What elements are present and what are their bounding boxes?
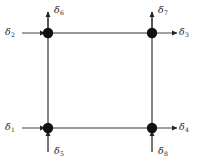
node-top-right	[147, 28, 157, 38]
dof-diagram-figure: δ1 δ2 δ3 δ4 δ5 δ6 δ7 δ8	[0, 0, 199, 165]
dof-symbol-d7: δ	[158, 4, 164, 15]
dof-symbol-d4: δ	[179, 121, 185, 132]
dof-subscript-d6: 6	[60, 9, 64, 16]
dof-subscript-d2: 2	[11, 31, 15, 38]
dof-symbol-d6: δ	[54, 4, 60, 15]
dof-symbol-d1: δ	[5, 121, 11, 132]
dof-label-d3: δ3	[179, 27, 189, 37]
node-top-left	[43, 28, 53, 38]
dof-label-d5: δ5	[54, 146, 64, 156]
dof-subscript-d7: 7	[164, 9, 168, 16]
diagram-canvas	[0, 0, 199, 165]
dof-subscript-d1: 1	[11, 126, 15, 133]
dof-label-d6: δ6	[54, 5, 64, 15]
frame-members	[48, 33, 152, 128]
dof-symbol-d3: δ	[179, 26, 185, 37]
dof-label-d8: δ8	[158, 146, 168, 156]
dof-symbol-d2: δ	[5, 26, 11, 37]
dof-subscript-d5: 5	[60, 150, 64, 157]
dof-label-d4: δ4	[179, 122, 189, 132]
dof-subscript-d4: 4	[185, 126, 189, 133]
dof-label-d7: δ7	[158, 5, 168, 15]
dof-symbol-d8: δ	[158, 145, 164, 156]
dof-symbol-d5: δ	[54, 145, 60, 156]
frame-nodes	[43, 28, 157, 133]
dof-label-d2: δ2	[5, 27, 15, 37]
dof-subscript-d3: 3	[185, 31, 189, 38]
node-bottom-left	[43, 123, 53, 133]
node-bottom-right	[147, 123, 157, 133]
dof-subscript-d8: 8	[164, 150, 168, 157]
dof-label-d1: δ1	[5, 122, 15, 132]
